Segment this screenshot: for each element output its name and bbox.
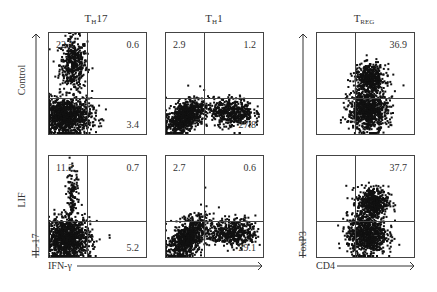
event-dot xyxy=(169,107,171,109)
event-dot xyxy=(236,109,238,111)
event-dot xyxy=(207,95,209,97)
event-dot xyxy=(202,216,204,218)
event-dot xyxy=(237,227,239,229)
event-dot xyxy=(73,74,75,76)
event-dot xyxy=(74,47,76,49)
event-dot xyxy=(186,107,188,109)
event-dot xyxy=(188,231,190,233)
event-dot xyxy=(73,255,75,257)
event-dot xyxy=(72,185,74,187)
event-dot xyxy=(64,252,66,254)
event-dot xyxy=(369,111,371,113)
event-dot xyxy=(227,96,229,98)
event-dot xyxy=(52,117,54,119)
event-dot xyxy=(369,118,371,120)
event-dot xyxy=(65,244,67,246)
event-dot xyxy=(361,92,363,94)
event-dot xyxy=(375,203,377,205)
event-dot xyxy=(66,83,68,85)
event-dot xyxy=(52,123,54,125)
event-dot xyxy=(370,94,372,96)
event-dot xyxy=(366,73,368,75)
event-dot xyxy=(65,110,67,112)
event-dot xyxy=(389,251,391,253)
event-dot xyxy=(54,132,56,134)
event-dot xyxy=(200,103,202,105)
event-dot xyxy=(79,240,81,242)
quadrant-value-upper-right: 0.6 xyxy=(244,162,257,173)
event-dot xyxy=(74,115,76,117)
event-dot xyxy=(109,234,111,236)
event-dot xyxy=(238,236,240,238)
event-dot xyxy=(65,56,67,58)
event-dot xyxy=(76,81,78,83)
event-dot xyxy=(367,93,369,95)
event-dot xyxy=(379,93,381,95)
event-dot xyxy=(80,87,82,89)
event-dot xyxy=(194,118,196,120)
event-dot xyxy=(387,112,389,114)
event-dot xyxy=(364,91,366,93)
event-dot xyxy=(167,113,169,115)
event-dot xyxy=(233,224,235,226)
event-dot xyxy=(187,112,189,114)
event-dot xyxy=(378,73,380,75)
event-dot xyxy=(364,114,366,116)
event-dot xyxy=(191,245,193,247)
event-dot xyxy=(249,235,251,237)
event-dot xyxy=(214,244,216,246)
event-dot xyxy=(378,208,380,210)
event-dot xyxy=(93,248,95,250)
event-dot xyxy=(58,65,60,67)
event-dot xyxy=(247,222,249,224)
event-dot xyxy=(189,112,191,114)
event-dot xyxy=(358,111,360,113)
event-dot xyxy=(253,228,255,230)
event-dot xyxy=(66,132,68,134)
event-dot xyxy=(178,116,180,118)
event-dot xyxy=(70,242,72,244)
event-dot xyxy=(210,230,212,232)
event-dot xyxy=(67,68,69,70)
event-dot xyxy=(351,233,353,235)
event-dot xyxy=(256,124,258,126)
event-dot xyxy=(183,125,185,127)
event-dot xyxy=(207,229,209,231)
event-dot xyxy=(378,116,380,118)
event-dot xyxy=(190,243,192,245)
event-dot xyxy=(172,245,174,247)
event-dot xyxy=(375,83,377,85)
event-dot xyxy=(77,38,79,40)
event-dot xyxy=(256,117,258,119)
event-dot xyxy=(70,198,72,200)
event-dot xyxy=(175,108,177,110)
event-dot xyxy=(353,255,355,257)
event-dot xyxy=(85,68,87,70)
event-dot xyxy=(72,99,74,101)
event-dot xyxy=(75,102,77,104)
event-dot xyxy=(359,255,361,257)
event-dot xyxy=(64,229,66,231)
event-dot xyxy=(74,41,76,43)
event-dot xyxy=(209,111,211,113)
event-dot xyxy=(373,239,375,241)
event-dot xyxy=(68,71,70,73)
event-dot xyxy=(343,102,345,104)
event-dot xyxy=(339,247,341,249)
event-dot xyxy=(353,85,355,87)
event-dot xyxy=(81,251,83,253)
event-dot xyxy=(358,230,360,232)
event-dot xyxy=(240,108,242,110)
event-dot xyxy=(249,102,251,104)
event-dot xyxy=(74,103,76,105)
event-dot xyxy=(367,122,369,124)
y-axis-label-il17: IL-17 xyxy=(30,234,41,257)
event-dot xyxy=(245,104,247,106)
event-dot xyxy=(192,255,194,257)
event-dot xyxy=(366,69,368,71)
event-dot xyxy=(220,102,222,104)
event-dot xyxy=(62,72,64,74)
event-dot xyxy=(228,104,230,106)
event-dot xyxy=(60,253,62,255)
event-dot xyxy=(61,67,63,69)
